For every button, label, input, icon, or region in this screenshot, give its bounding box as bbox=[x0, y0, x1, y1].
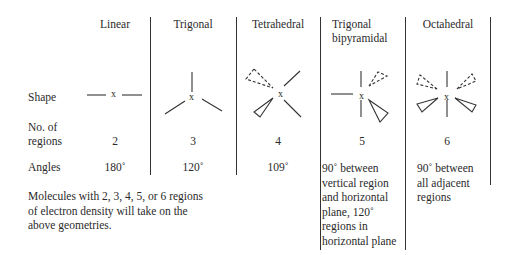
angles-tbp-line: horizontal plane bbox=[322, 234, 396, 249]
footnote-line: Molecules with 2, 3, 4, 5, or 6 regions bbox=[28, 189, 203, 204]
footnote: Molecules with 2, 3, 4, 5, or 6 regions … bbox=[28, 189, 203, 233]
angles-tbp-line: 90˚ between bbox=[322, 161, 396, 176]
regions-trigonal: 3 bbox=[178, 134, 208, 148]
linear-center-atom: x bbox=[111, 89, 116, 99]
trigonal-bipyramidal-geometry-icon bbox=[320, 60, 410, 135]
header-trigonal-bipyramidal-line1: Trigonal bbox=[332, 17, 371, 31]
trigonal-geometry-icon bbox=[160, 60, 230, 120]
regions-octahedral: 6 bbox=[432, 134, 462, 148]
octahedral-geometry-icon bbox=[405, 60, 510, 135]
header-octahedral: Octahedral bbox=[406, 17, 490, 31]
regions-tetrahedral: 4 bbox=[263, 134, 293, 148]
footnote-line: above geometries. bbox=[28, 218, 203, 233]
angles-tbp-line: vertical region bbox=[322, 176, 396, 191]
angles-trigonal-bipyramidal: 90˚ between vertical region and horizont… bbox=[322, 161, 396, 248]
angles-tbp-line: plane, 120˚ bbox=[322, 205, 396, 220]
divider-linear-trigonal bbox=[150, 17, 151, 175]
row-label-regions-line1: No. of bbox=[28, 120, 57, 134]
angles-tetrahedral: 109˚ bbox=[258, 160, 298, 174]
header-linear: Linear bbox=[90, 17, 140, 31]
angles-octahedral: 90˚ between all adjacent regions bbox=[417, 161, 474, 205]
divider-trigonal-tetrahedral bbox=[236, 17, 237, 175]
angles-oct-line: 90˚ between bbox=[417, 161, 474, 176]
header-trigonal: Trigonal bbox=[160, 17, 226, 31]
row-label-angles: Angles bbox=[28, 160, 61, 174]
row-label-shape: Shape bbox=[28, 90, 56, 104]
angles-oct-line: regions bbox=[417, 190, 474, 205]
trigonal-bipyramidal-center-atom: x bbox=[359, 91, 364, 101]
angles-linear: 180˚ bbox=[95, 160, 135, 174]
trigonal-center-atom: x bbox=[189, 92, 194, 102]
regions-trigonal-bipyramidal: 5 bbox=[347, 134, 377, 148]
regions-linear: 2 bbox=[100, 134, 130, 148]
angles-tbp-line: and horizontal bbox=[322, 190, 396, 205]
octahedral-center-atom: x bbox=[444, 92, 449, 102]
row-label-regions-line2: regions bbox=[28, 134, 62, 148]
header-trigonal-bipyramidal-line2: bipyramidal bbox=[332, 31, 388, 45]
angles-trigonal: 120˚ bbox=[173, 160, 213, 174]
tetrahedral-center-atom: x bbox=[278, 89, 283, 99]
angles-oct-line: all adjacent bbox=[417, 176, 474, 191]
angles-tbp-line: regions in bbox=[322, 219, 396, 234]
footnote-line: of electron density will take on the bbox=[28, 204, 203, 219]
header-tetrahedral: Tetrahedral bbox=[238, 17, 318, 31]
